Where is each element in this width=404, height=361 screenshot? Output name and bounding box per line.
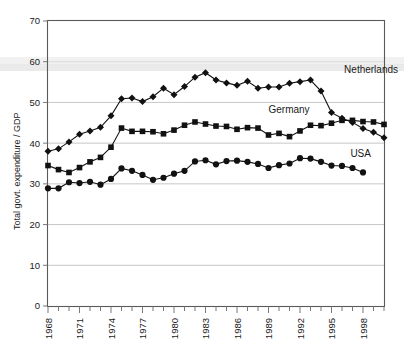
data-point-circle <box>360 169 366 175</box>
data-point-square <box>192 119 198 125</box>
data-point-circle <box>318 159 324 165</box>
data-point-square <box>45 163 51 169</box>
data-point-circle <box>150 177 156 183</box>
data-point-square <box>213 123 219 129</box>
data-point-square <box>255 125 261 131</box>
series-label-usa: USA <box>350 148 371 159</box>
data-point-square <box>171 127 177 133</box>
data-point-square <box>297 128 303 134</box>
data-point-circle <box>244 159 250 165</box>
x-tick-label: 1986 <box>232 318 243 339</box>
data-point-circle <box>286 160 292 166</box>
x-tick-label: 1983 <box>200 318 211 339</box>
data-point-circle <box>223 158 229 164</box>
data-point-circle <box>202 157 208 163</box>
data-point-square <box>381 122 387 128</box>
data-point-square <box>318 123 324 129</box>
data-point-square <box>245 125 251 131</box>
data-point-square <box>308 122 314 128</box>
series-label-germany: Germany <box>269 104 310 115</box>
data-point-circle <box>87 179 93 185</box>
data-point-circle <box>97 182 103 188</box>
data-point-circle <box>234 158 240 164</box>
data-point-circle <box>118 165 124 171</box>
data-point-square <box>203 121 209 127</box>
y-tick-label: 40 <box>29 138 40 149</box>
chart-container: 010203040506070 196819711974197719801983… <box>0 0 404 361</box>
data-point-square <box>224 124 230 130</box>
data-point-square <box>56 167 62 173</box>
data-point-circle <box>192 158 198 164</box>
x-tick-label: 1974 <box>106 318 117 339</box>
data-point-square <box>329 120 335 126</box>
data-point-circle <box>328 162 334 168</box>
y-tick-label: 20 <box>29 219 40 230</box>
y-tick-label: 0 <box>35 300 40 311</box>
y-tick-label: 10 <box>29 260 40 271</box>
data-point-square <box>119 125 125 131</box>
data-point-circle <box>181 168 187 174</box>
data-point-circle <box>307 156 313 162</box>
data-point-square <box>266 132 272 138</box>
data-point-circle <box>213 161 219 167</box>
x-tick-label: 1971 <box>74 318 85 339</box>
data-point-circle <box>139 172 145 178</box>
data-point-square <box>234 127 240 133</box>
x-tick-label: 1977 <box>137 318 148 339</box>
y-tick-label: 30 <box>29 178 40 189</box>
series-label-netherlands: Netherlands <box>344 64 398 75</box>
data-point-circle <box>45 185 51 191</box>
data-point-square <box>108 144 114 150</box>
data-point-circle <box>265 165 271 171</box>
data-point-circle <box>171 171 177 177</box>
data-point-square <box>287 134 293 140</box>
line-chart: 010203040506070 196819711974197719801983… <box>0 0 404 361</box>
data-point-square <box>129 129 135 135</box>
x-tick-label: 1980 <box>169 318 180 339</box>
x-tick-label: 1968 <box>43 318 54 339</box>
data-point-circle <box>276 162 282 168</box>
x-tick-label: 1989 <box>263 318 274 339</box>
y-axis-title: Total govt. expenditure / GDP <box>12 112 22 230</box>
data-point-circle <box>349 165 355 171</box>
data-point-square <box>140 129 146 135</box>
data-point-square <box>77 165 83 171</box>
data-point-circle <box>66 179 72 185</box>
data-point-circle <box>255 161 261 167</box>
data-point-square <box>150 129 156 135</box>
data-point-square <box>98 155 104 161</box>
x-tick-label: 1995 <box>326 318 337 339</box>
data-point-circle <box>160 175 166 181</box>
y-tick-label: 50 <box>29 97 40 108</box>
data-point-square <box>360 119 366 125</box>
data-point-square <box>276 131 282 137</box>
x-tick-label: 1992 <box>295 318 306 339</box>
y-tick-label: 70 <box>29 15 40 26</box>
data-point-square <box>371 119 377 125</box>
data-point-circle <box>76 180 82 186</box>
data-point-square <box>87 159 93 165</box>
data-point-circle <box>297 155 303 161</box>
y-tick-label: 60 <box>29 56 40 67</box>
data-point-circle <box>55 185 61 191</box>
x-tick-label: 1998 <box>358 318 369 339</box>
data-point-circle <box>129 168 135 174</box>
data-point-square <box>66 170 72 176</box>
data-point-circle <box>339 163 345 169</box>
data-point-square <box>161 131 167 137</box>
data-point-square <box>182 122 188 128</box>
data-point-square <box>339 118 345 124</box>
data-point-circle <box>108 176 114 182</box>
data-point-square <box>350 118 356 124</box>
